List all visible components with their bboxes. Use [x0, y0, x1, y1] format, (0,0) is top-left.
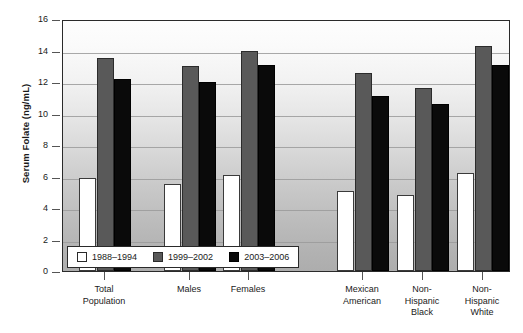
bar [415, 88, 432, 271]
bar [492, 65, 509, 271]
y-axis-tick [52, 83, 60, 84]
y-axis-tick-label: 2 [4, 236, 48, 245]
bar [457, 173, 474, 271]
legend-label-1999-2002: 1999–2002 [168, 253, 213, 262]
gridline [63, 53, 509, 54]
x-axis-category-line: White [439, 307, 523, 319]
y-axis-tick-label: 0 [4, 267, 48, 276]
legend-swatch-1988-1994-icon [77, 252, 87, 262]
x-axis-tick [482, 272, 483, 280]
y-axis-tick [52, 52, 60, 53]
legend-swatch-1999-2002-icon [153, 252, 163, 262]
y-axis-tick [52, 20, 60, 21]
bar [114, 79, 131, 271]
y-axis-tick [52, 146, 60, 147]
y-axis-tick-label: 10 [4, 110, 48, 119]
bar [97, 58, 114, 271]
y-axis-tick-label: 12 [4, 78, 48, 87]
y-axis-tick [52, 178, 60, 179]
x-axis-category-label: Non-HispanicWhite [439, 284, 523, 319]
y-axis-tick [52, 209, 60, 210]
legend-label-1988-1994: 1988–1994 [92, 253, 137, 262]
y-axis-tick [52, 272, 60, 273]
x-axis-tick [104, 272, 105, 280]
legend-label-2003-2006: 2003–2006 [244, 253, 289, 262]
bar [475, 46, 492, 271]
y-axis-tick [52, 241, 60, 242]
bar [372, 96, 389, 271]
bar [199, 82, 216, 271]
serum-folate-bar-chart: Serum Folate (ng/mL) 1614121086420 1988–… [0, 0, 523, 333]
x-axis-tick [362, 272, 363, 280]
x-axis-category-line: Total [61, 284, 147, 296]
x-axis-category-label: TotalPopulation [61, 284, 147, 307]
y-axis-tick-label: 8 [4, 141, 48, 150]
x-axis-category-line: Non- [439, 284, 523, 296]
x-axis-category-line: Hispanic [439, 296, 523, 308]
x-axis-tick [422, 272, 423, 280]
bar [397, 195, 414, 271]
chart-legend: 1988–1994 1999–2002 2003–2006 [67, 246, 299, 268]
x-axis-category-label: Females [205, 284, 291, 296]
y-axis-tick-label: 16 [4, 15, 48, 24]
y-axis-tick-label: 14 [4, 47, 48, 56]
x-axis-tick [189, 272, 190, 280]
bar [432, 104, 449, 271]
bar [355, 73, 372, 271]
x-axis-category-line: Females [205, 284, 291, 296]
plot-area: 1988–1994 1999–2002 2003–2006 [62, 20, 510, 272]
legend-swatch-2003-2006-icon [229, 252, 239, 262]
y-axis-tick-label: 6 [4, 173, 48, 182]
legend-item: 1988–1994 [77, 252, 137, 262]
legend-item: 2003–2006 [229, 252, 289, 262]
x-axis-tick [248, 272, 249, 280]
legend-item: 1999–2002 [153, 252, 213, 262]
y-axis-tick-label: 4 [4, 204, 48, 213]
bar [182, 66, 199, 271]
bar [241, 51, 258, 272]
bar [258, 65, 275, 271]
x-axis-category-line: Population [61, 296, 147, 308]
y-axis-tick [52, 115, 60, 116]
y-axis-title: Serum Folate (ng/mL) [20, 44, 31, 224]
bar [337, 191, 354, 271]
